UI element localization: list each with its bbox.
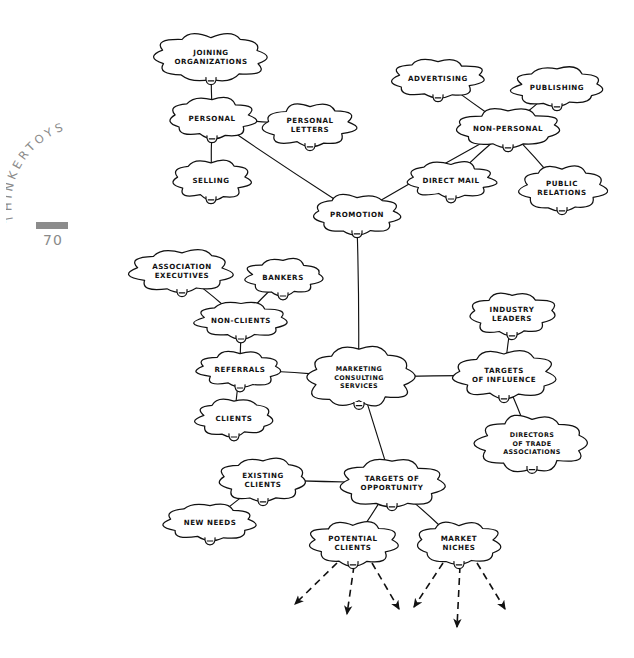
node-clients[interactable]: CLIENTS <box>195 399 273 441</box>
edge-advertising-to-non-personal <box>459 93 488 113</box>
nodes-layer: JOININGORGANIZATIONSPERSONALPERSONALLETT… <box>129 34 608 569</box>
thought-bubble-tail <box>235 384 245 391</box>
node-advertising[interactable]: ADVERTISING <box>392 59 485 101</box>
node-personal[interactable]: PERSONAL <box>170 97 257 142</box>
node-label: BANKERS <box>262 273 304 282</box>
node-publishing[interactable]: PUBLISHING <box>510 67 602 111</box>
thought-bubble-tail <box>229 433 239 440</box>
node-label: PERSONALLETTERS <box>287 116 334 134</box>
thought-bubble-tail <box>348 561 358 568</box>
node-label: CLIENTS <box>216 414 253 423</box>
book-page: JOININGORGANIZATIONSPERSONALPERSONALLETT… <box>0 0 634 658</box>
node-label: PERSONAL <box>189 114 236 123</box>
thought-bubble-tail <box>454 561 464 568</box>
dashed-arrow-from-market-niches-4 <box>457 566 460 627</box>
thought-bubble-tail <box>387 503 397 510</box>
dashed-arrow-from-potential-clients-1 <box>347 566 354 614</box>
edge-non-personal-to-public-relations <box>523 144 546 170</box>
node-label: MARKETNICHES <box>441 534 478 552</box>
thought-bubble-tail <box>278 292 288 299</box>
dashed-arrow-from-market-niches-5 <box>477 563 505 609</box>
node-personal-letters[interactable]: PERSONALLETTERS <box>262 104 357 151</box>
node-new-needs[interactable]: NEW NEEDS <box>163 504 256 545</box>
page-number-rule <box>36 222 68 229</box>
thought-bubble-tail <box>305 143 315 150</box>
edge-association-executives-to-non-clients <box>202 288 223 306</box>
thought-bubble-tail <box>527 466 537 473</box>
dashed-arrows-layer <box>295 563 505 627</box>
node-label: PUBLISHING <box>530 83 584 92</box>
node-industry-leaders[interactable]: INDUSTRYLEADERS <box>470 293 555 339</box>
node-label: MARKETINGCONSULTINGSERVICES <box>334 365 384 390</box>
node-label: ASSOCIATIONEXECUTIVES <box>152 262 212 280</box>
thought-bubble-tail <box>206 196 216 203</box>
node-targets-of-influence[interactable]: TARGETSOF INFLUENCE <box>453 351 556 403</box>
mind-map-canvas: JOININGORGANIZATIONSPERSONALPERSONALLETT… <box>0 0 634 658</box>
edge-referrals-to-marketing-consulting-services <box>277 372 313 374</box>
node-direct-mail[interactable]: DIRECT MAIL <box>407 162 497 203</box>
node-label: PROMOTION <box>330 210 384 219</box>
node-non-personal[interactable]: NON-PERSONAL <box>457 109 560 152</box>
thought-bubble-tail <box>352 230 362 237</box>
thought-bubble-tail <box>205 537 215 544</box>
node-label: ADVERTISING <box>408 74 468 83</box>
thought-bubble-tail <box>207 135 217 142</box>
node-potential-clients[interactable]: POTENTIALCLIENTS <box>309 522 398 569</box>
node-label: REFERRALS <box>215 365 266 374</box>
node-public-relations[interactable]: PUBLICRELATIONS <box>519 166 608 215</box>
dashed-arrow-from-potential-clients-2 <box>372 563 399 609</box>
edge-promotion-to-marketing-consulting-services <box>357 231 359 351</box>
node-association-executives[interactable]: ASSOCIATIONEXECUTIVES <box>129 250 234 297</box>
dashed-arrow-from-potential-clients-0 <box>295 563 337 604</box>
node-label: TARGETS OFOPPORTUNITY <box>361 474 424 492</box>
node-label: INDUSTRYLEADERS <box>490 305 535 323</box>
thought-bubble-tail <box>354 402 364 409</box>
node-directors-of-trade-associations[interactable]: DIRECTORSOF TRADEASSOCIATIONS <box>474 415 587 473</box>
thought-bubble-tail <box>557 207 567 214</box>
thought-bubble-tail <box>446 195 456 202</box>
edge-targets-of-opportunity-to-market-niches <box>413 502 441 527</box>
thought-bubble-tail <box>258 498 268 505</box>
page-number: 70 <box>30 232 76 248</box>
edge-existing-clients-to-targets-of-opportunity <box>301 481 347 482</box>
node-marketing-consulting-services[interactable]: MARKETINGCONSULTINGSERVICES <box>307 346 415 409</box>
node-label: DIRECT MAIL <box>422 176 479 185</box>
thought-bubble-tail <box>552 103 562 110</box>
node-label: NEW NEEDS <box>184 518 237 527</box>
node-bankers[interactable]: BANKERS <box>245 258 323 299</box>
node-label: EXISTINGCLIENTS <box>242 471 284 489</box>
node-label: POTENTIALCLIENTS <box>328 534 377 552</box>
thought-bubble-tail <box>236 335 246 342</box>
node-referrals[interactable]: REFERRALS <box>196 351 281 391</box>
node-label: NON-PERSONAL <box>473 124 543 133</box>
node-non-clients[interactable]: NON-CLIENTS <box>194 302 287 342</box>
node-label: NON-CLIENTS <box>211 316 271 325</box>
thought-bubble-tail <box>206 77 216 84</box>
thought-bubble-tail <box>503 144 513 151</box>
thought-bubble-tail <box>499 395 509 402</box>
node-targets-of-opportunity[interactable]: TARGETS OFOPPORTUNITY <box>340 459 445 510</box>
node-market-niches[interactable]: MARKETNICHES <box>417 522 500 568</box>
edge-non-personal-to-direct-mail <box>467 144 491 166</box>
thought-bubble-tail <box>507 332 517 339</box>
thought-bubble-tail <box>433 94 443 101</box>
dashed-arrow-from-market-niches-3 <box>414 563 443 607</box>
edge-marketing-consulting-services-to-targets-of-opportunity <box>367 403 386 463</box>
thought-bubble-tail <box>177 289 187 296</box>
node-label: SELLING <box>192 176 229 185</box>
node-promotion[interactable]: PROMOTION <box>314 194 401 237</box>
node-existing-clients[interactable]: EXISTINGCLIENTS <box>219 458 305 506</box>
node-selling[interactable]: SELLING <box>173 160 252 204</box>
node-joining-organizations[interactable]: JOININGORGANIZATIONS <box>154 34 268 85</box>
